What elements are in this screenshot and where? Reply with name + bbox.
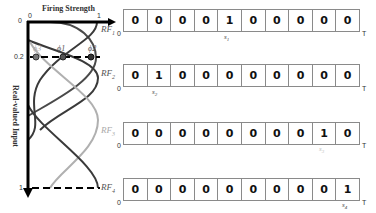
- spike-train-row-3: 0 0 0 0 0 0 0 0 1 0: [123, 122, 360, 145]
- x-tick-0: 0: [28, 12, 32, 19]
- x-tick-1: 1: [97, 12, 101, 19]
- row3-end: T: [362, 142, 366, 149]
- x-axis-title: Firing Strength: [42, 4, 95, 13]
- rf4-label: RF4: [101, 182, 115, 194]
- cell: 0: [218, 179, 242, 200]
- cell: 0: [289, 65, 313, 86]
- spike-train-row-4: 0 0 0 0 0 0 0 0 0 1: [123, 178, 360, 201]
- spike-train-row-1: 0 0 0 0 1 0 0 0 0 0: [123, 9, 360, 32]
- phi1-label: ϕ1: [57, 44, 65, 53]
- s1-label: s1: [224, 33, 229, 42]
- rf1-label: RF1: [101, 24, 115, 36]
- y-tick-0: 0: [18, 17, 22, 24]
- cell: 0: [171, 179, 195, 200]
- cell: 0: [242, 10, 266, 31]
- cell: 0: [336, 10, 359, 31]
- cell: 0: [289, 123, 313, 144]
- cell: 1: [148, 65, 172, 86]
- cell: 1: [336, 179, 359, 200]
- cell: 0: [266, 123, 290, 144]
- cell: 0: [195, 179, 219, 200]
- cell: 0: [124, 179, 148, 200]
- y-axis-title: Real-valued Input: [11, 85, 20, 147]
- cell: 0: [171, 123, 195, 144]
- cell: 0: [124, 10, 148, 31]
- row1-end: T: [362, 30, 366, 37]
- cell: 0: [171, 10, 195, 31]
- s2-label: s2: [152, 88, 157, 97]
- cell: 1: [313, 123, 337, 144]
- cell: 0: [195, 123, 219, 144]
- phi3-point: [33, 54, 39, 60]
- y-tick-0-2: 0.2: [14, 53, 24, 60]
- cell: 0: [124, 123, 148, 144]
- phi1-point: [60, 54, 66, 60]
- cell: 0: [313, 65, 337, 86]
- cell: 0: [218, 123, 242, 144]
- s4-label: s4: [342, 201, 347, 210]
- s3-label: s3: [319, 145, 324, 154]
- y-tick-1: 1: [19, 184, 23, 191]
- cell: 0: [148, 10, 172, 31]
- cell: 0: [195, 65, 219, 86]
- row2-end: T: [362, 85, 366, 92]
- rf1-curve: [28, 22, 96, 116]
- cell: 0: [171, 65, 195, 86]
- y-axis-arrow-icon: [23, 188, 33, 198]
- rf2-curve: [28, 22, 97, 140]
- cell: 0: [266, 179, 290, 200]
- cell: 0: [242, 179, 266, 200]
- row4-start: 0: [117, 199, 121, 206]
- cell: 0: [148, 179, 172, 200]
- phi2-point: [88, 54, 94, 60]
- row2-start: 0: [117, 85, 121, 92]
- cell: 0: [313, 179, 337, 200]
- cell: 0: [242, 123, 266, 144]
- cell: 0: [289, 179, 313, 200]
- cell: 0: [266, 10, 290, 31]
- cell: 0: [148, 123, 172, 144]
- row3-start: 0: [117, 142, 121, 149]
- phi2-label: ϕ2: [88, 44, 96, 53]
- cell: 0: [289, 10, 313, 31]
- rf3-label: RF3: [101, 125, 115, 137]
- rf2-label: RF2: [101, 68, 115, 80]
- cell: 0: [266, 65, 290, 86]
- cell: 0: [242, 65, 266, 86]
- cell: 1: [218, 10, 242, 31]
- cell: 0: [218, 65, 242, 86]
- cell: 0: [195, 10, 219, 31]
- rf3-upper: [36, 58, 98, 118]
- row4-end: T: [362, 199, 366, 206]
- row1-start: 0: [117, 30, 121, 37]
- cell: 0: [124, 65, 148, 86]
- phi3-label: ϕ3: [33, 44, 41, 53]
- spike-train-row-2: 0 1 0 0 0 0 0 0 0 0: [123, 64, 360, 87]
- cell: 0: [336, 123, 359, 144]
- cell: 0: [336, 65, 359, 86]
- cell: 0: [313, 10, 337, 31]
